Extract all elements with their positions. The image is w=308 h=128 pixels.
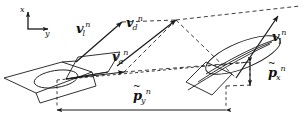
vector-diagram-figure: x y vln vdn van vln ~pxn ~pyn xyxy=(0,0,308,128)
label-v-l-left: vln xyxy=(76,20,91,36)
label-v-a: van xyxy=(112,48,130,64)
coordinate-frame xyxy=(27,12,48,29)
vector-v-a xyxy=(66,72,124,79)
label-v-d: vdn xyxy=(126,14,144,30)
label-p-tilde-y: ~pyn xyxy=(133,87,152,103)
dashed-baseline xyxy=(57,62,250,80)
construction-lines xyxy=(57,6,300,108)
left-body xyxy=(4,61,96,103)
vector-arrows xyxy=(66,16,278,79)
dashed-right-foot xyxy=(226,85,252,86)
right-wing-lower2 xyxy=(188,44,270,90)
axis-label-x: x xyxy=(20,6,25,14)
diagram-canvas xyxy=(0,0,308,128)
dashed-top-right xyxy=(176,6,300,20)
fuselage-edge-top xyxy=(62,61,76,62)
label-p-tilde-x: ~pxn xyxy=(268,64,287,80)
axis-label-y: y xyxy=(45,30,50,38)
label-v-l-right: vln xyxy=(272,28,287,44)
